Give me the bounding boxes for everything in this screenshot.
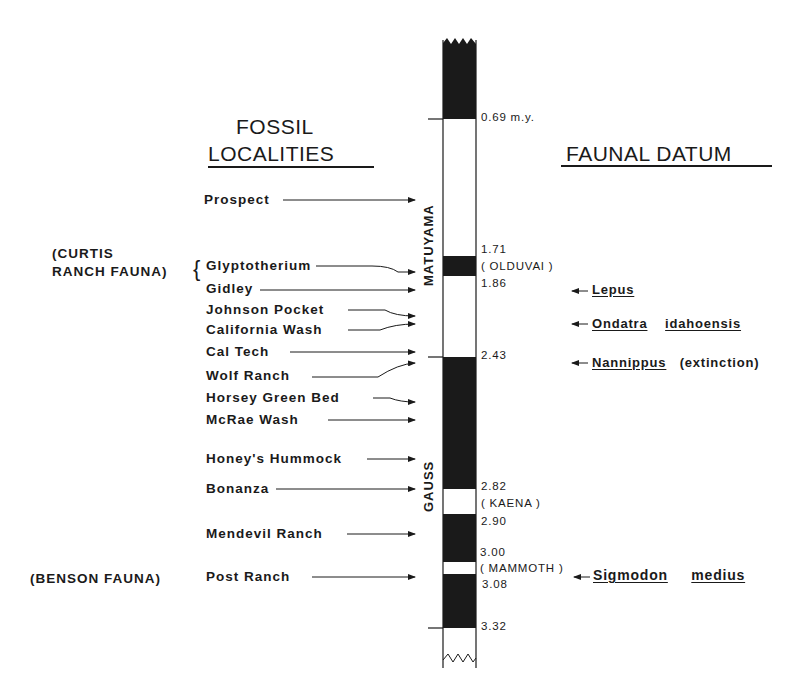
datum-sigmodon-medius: Sigmodon medius xyxy=(593,567,745,583)
epoch-gauss-label: GAUSS xyxy=(421,461,436,512)
locality-johnson-pocket: Johnson Pocket xyxy=(206,302,324,317)
age-2-82: 2.82 xyxy=(481,480,507,492)
locality-california-wash: California Wash xyxy=(206,322,323,337)
curtis-ranch-label-line1: (CURTIS xyxy=(52,245,114,263)
benson-fauna-label: (BENSON FAUNA) xyxy=(30,570,161,588)
heading-fossil: FOSSIL xyxy=(236,115,314,139)
age-3-00: 3.00 xyxy=(480,546,506,558)
locality-cal-tech: Cal Tech xyxy=(206,344,269,359)
curtis-ranch-label-line2: RANCH FAUNA) xyxy=(52,263,168,281)
datum-nannippus: Nannippus (extinction) xyxy=(592,355,759,370)
age-2-43: 2.43 xyxy=(481,349,507,361)
locality-prospect: Prospect xyxy=(204,192,270,207)
heading-faunal-datum: FAUNAL DATUM xyxy=(566,142,732,166)
age-1-71: 1.71 xyxy=(481,243,507,255)
locality-post-ranch: Post Ranch xyxy=(206,569,290,584)
locality-mcrae-wash: McRae Wash xyxy=(206,412,299,427)
locality-horsey-green-bed: Horsey Green Bed xyxy=(206,390,340,405)
datum-lepus: Lepus xyxy=(592,282,634,297)
curtis-brace-icon: { xyxy=(193,256,200,282)
locality-gidley: Gidley xyxy=(206,281,253,296)
age-2-90: 2.90 xyxy=(481,515,507,527)
mammoth-subchron-label: ( MAMMOTH ) xyxy=(480,562,564,574)
locality-glyptotherium: Glyptotherium xyxy=(206,258,311,273)
locality-honeys-hummock: Honey's Hummock xyxy=(206,451,342,466)
datum-ondatra-genus: Ondatra xyxy=(592,316,647,331)
locality-bonanza: Bonanza xyxy=(206,481,269,496)
epoch-matuyama-label: MATUYAMA xyxy=(421,204,436,286)
datum-ondatra-species: idahoensis xyxy=(665,316,741,331)
heading-localities: LOCALITIES xyxy=(208,142,334,166)
locality-mendevil-ranch: Mendevil Ranch xyxy=(206,526,323,541)
datum-ondatra-idahoensis: Ondatra idahoensis xyxy=(592,316,741,331)
age-0-69: 0.69 m.y. xyxy=(481,111,535,123)
datum-sigmodon-genus: Sigmodon xyxy=(593,567,668,583)
locality-wolf-ranch: Wolf Ranch xyxy=(206,368,290,383)
normal-polarity-bands xyxy=(443,38,476,628)
olduvai-subchron-label: ( OLDUVAI ) xyxy=(481,260,553,272)
age-3-08: 3.08 xyxy=(482,578,508,590)
age-3-32: 3.32 xyxy=(481,620,507,632)
datum-nannippus-taxon: Nannippus xyxy=(592,355,666,370)
datum-sigmodon-species: medius xyxy=(691,567,745,583)
polarity-column xyxy=(443,40,476,668)
age-1-86: 1.86 xyxy=(481,277,507,289)
datum-lepus-taxon: Lepus xyxy=(592,282,634,297)
kaena-subchron-label: ( KAENA ) xyxy=(481,497,541,509)
datum-nannippus-note: (extinction) xyxy=(680,355,760,370)
